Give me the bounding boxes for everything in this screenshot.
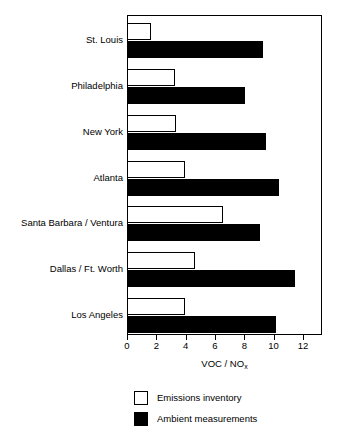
x-axis-title-subscript: x xyxy=(244,363,248,370)
category-label: Dallas / Ft. Worth xyxy=(0,263,123,274)
legend-swatch-filled xyxy=(134,412,148,426)
legend-item: Ambient measurements xyxy=(134,408,334,429)
x-tick-label: 2 xyxy=(154,340,159,352)
bar-ambient-measurements xyxy=(128,316,276,333)
category-axis-labels: St. LouisPhiladelphiaNew YorkAtlantaSant… xyxy=(0,15,123,325)
bar-ambient-measurements xyxy=(128,270,295,287)
legend-label: Ambient measurements xyxy=(157,413,257,425)
category-label: Santa Barbara / Ventura xyxy=(0,217,123,228)
legend-label: Emissions inventory xyxy=(157,392,241,404)
x-tick-label: 10 xyxy=(268,340,279,352)
bar-ambient-measurements xyxy=(128,41,263,58)
bar-ambient-measurements xyxy=(128,133,266,150)
plot-area xyxy=(127,15,322,335)
bar-emissions-inventory xyxy=(128,23,151,40)
legend-swatch-open xyxy=(134,391,148,405)
legend-item: Emissions inventory xyxy=(134,387,334,408)
category-label: Los Angeles xyxy=(0,309,123,320)
bar-emissions-inventory xyxy=(128,298,185,315)
bar-emissions-inventory xyxy=(128,115,176,132)
category-label: Atlanta xyxy=(0,172,123,183)
bar-emissions-inventory xyxy=(128,252,195,269)
x-axis-title: VOC / NOx xyxy=(127,357,322,371)
x-axis-tick-labels: 024681012 xyxy=(0,340,341,354)
x-axis-title-text: VOC / NO xyxy=(201,358,244,369)
x-tick-label: 12 xyxy=(298,340,309,352)
bar-ambient-measurements xyxy=(128,179,279,196)
chart-legend: Emissions inventoryAmbient measurements xyxy=(134,387,334,429)
category-label: St. Louis xyxy=(0,34,123,45)
bar-emissions-inventory xyxy=(128,161,185,178)
chart-figure: St. LouisPhiladelphiaNew YorkAtlantaSant… xyxy=(0,0,341,441)
x-tick-label: 8 xyxy=(242,340,247,352)
x-tick-label: 0 xyxy=(124,340,129,352)
category-label: Philadelphia xyxy=(0,80,123,91)
bar-ambient-measurements xyxy=(128,87,245,104)
x-tick-label: 4 xyxy=(183,340,188,352)
bar-emissions-inventory xyxy=(128,69,175,86)
category-label: New York xyxy=(0,126,123,137)
bar-ambient-measurements xyxy=(128,224,260,241)
x-tick-label: 6 xyxy=(212,340,217,352)
bar-emissions-inventory xyxy=(128,206,223,223)
